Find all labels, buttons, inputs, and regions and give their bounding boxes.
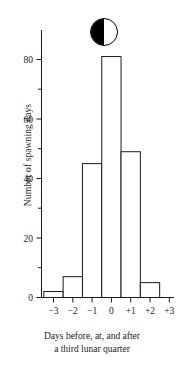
x-tick-label: −3 (48, 306, 58, 316)
bar (44, 292, 63, 298)
y-tick-labels: 0 20 40 60 80 (24, 55, 34, 303)
bar (121, 152, 140, 298)
y-major-ticks (37, 60, 42, 298)
bar (63, 277, 82, 298)
x-ticks (54, 298, 170, 303)
x-tick-label: +1 (126, 306, 136, 316)
x-tick-label: +3 (164, 306, 174, 316)
bar (102, 57, 121, 298)
y-tick-label: 60 (24, 115, 34, 125)
bar (140, 283, 159, 298)
y-tick-label: 40 (24, 174, 34, 184)
x-axis-label: Days before, at, and after a third lunar… (8, 330, 176, 356)
x-axis-label-line2: a third lunar quarter (8, 343, 176, 356)
y-tick-label: 20 (24, 234, 34, 244)
spawning-days-histogram-figure: Number of spawning days (0, 0, 179, 372)
x-tick-label: −2 (68, 306, 78, 316)
x-axis-label-line1: Days before, at, and after (44, 331, 140, 341)
y-tick-label: 0 (28, 293, 33, 303)
x-tick-label: −1 (87, 306, 97, 316)
chart-svg: 0 20 40 60 80 −3 −2 −1 0 (0, 0, 179, 372)
x-tick-labels: −3 −2 −1 0 +1 +2 +3 (48, 306, 174, 316)
bar (82, 164, 101, 298)
plot-area: 0 20 40 60 80 −3 −2 −1 0 (0, 0, 179, 372)
x-tick-label: 0 (109, 306, 114, 316)
y-tick-label: 80 (24, 55, 34, 65)
x-tick-label: +2 (145, 306, 155, 316)
histogram-bars (44, 57, 160, 298)
